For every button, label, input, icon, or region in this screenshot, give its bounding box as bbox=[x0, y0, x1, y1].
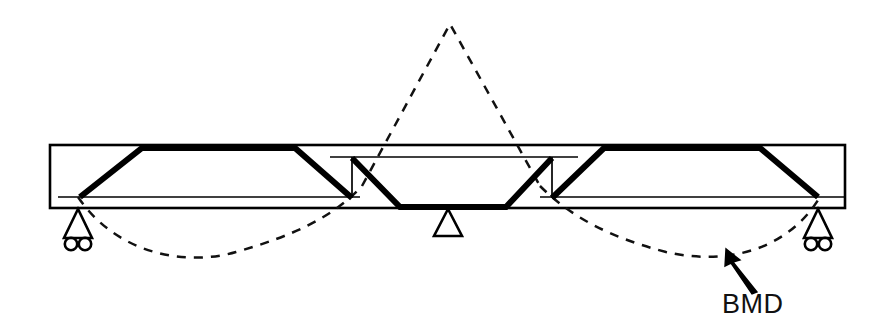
right-span-sagging-trapezoid bbox=[552, 148, 818, 198]
continuous-beam-outline bbox=[50, 145, 845, 208]
pin-support-center bbox=[434, 209, 462, 236]
roller-support-left-wheel-2 bbox=[79, 238, 91, 250]
roller-support-left bbox=[64, 209, 92, 250]
roller-support-right-wheel-2 bbox=[819, 238, 831, 250]
pin-support-center-triangle bbox=[434, 209, 462, 236]
bmd-hogging-peak bbox=[362, 24, 540, 186]
left-span-sagging-trapezoid bbox=[80, 148, 352, 198]
bmd-arrow-icon bbox=[725, 249, 757, 294]
roller-support-left-wheel-1 bbox=[65, 238, 77, 250]
bmd-figure: BMD bbox=[0, 0, 890, 328]
roller-support-left-triangle bbox=[64, 209, 92, 238]
roller-support-right-triangle bbox=[804, 209, 832, 238]
center-span-hogging-trapezoid bbox=[352, 158, 552, 207]
true-bmd-dashed-curve bbox=[78, 24, 820, 258]
bmd-label: BMD bbox=[722, 289, 784, 319]
beam-diagram-canvas: BMD bbox=[0, 0, 890, 328]
roller-support-right-wheel-1 bbox=[805, 238, 817, 250]
bmd-annotation-arrow bbox=[725, 249, 757, 294]
